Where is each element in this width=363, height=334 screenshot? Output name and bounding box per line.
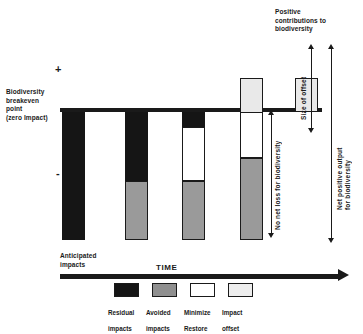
legend-item-avoided-impacts: Avoided impacts	[146, 283, 182, 333]
legend-label-impact-offset: Impact offset	[222, 301, 258, 333]
legend-swatch-avoided-impacts	[152, 283, 177, 297]
legend-swatch-impact-offset	[228, 283, 253, 297]
legend-label-residual-line-2: impacts	[108, 325, 132, 332]
legend-swatch-minimize-restore	[190, 283, 215, 297]
anticipated-impacts-line-1: Anticipated	[60, 252, 120, 261]
no-net-loss-label: No net loss for biodiversity	[274, 120, 282, 230]
baseline-overlay-end	[318, 108, 322, 112]
positive-contributions-line-1: Positive	[275, 8, 361, 17]
legend-label-minimize-line-2: Restore	[184, 325, 207, 332]
legend-label-avoided-impacts: Avoided impacts	[146, 301, 182, 333]
bar-stage-2	[125, 112, 148, 240]
legend-swatch-residual-impacts	[114, 283, 139, 297]
bar-stage-1-segment-residual	[62, 112, 85, 240]
bar-stage-4-segment-avoided	[240, 158, 263, 240]
legend: Residual impacts Avoided impacts Minimiz…	[108, 283, 258, 331]
legend-item-impact-offset: Impact offset	[222, 283, 258, 333]
bar-stage-3	[182, 112, 205, 240]
legend-item-residual-impacts: Residual impacts	[108, 283, 144, 333]
positive-contributions-annotation: Positive contributions to biodiversity	[275, 8, 361, 34]
baseline-label-line-3: point	[6, 105, 68, 114]
baseline-label-line-1: Biodiversity	[6, 88, 68, 97]
size-of-offset-label: Size of offset	[300, 62, 308, 120]
net-positive-output-line-1: Net positive output	[336, 147, 343, 210]
time-axis-line	[60, 274, 340, 279]
positive-contributions-line-2: contributions to	[275, 17, 361, 26]
bar-stage-3-segment-avoided	[182, 181, 205, 240]
net-positive-output-line-2: for biodiversity	[344, 100, 352, 210]
net-positive-output-label: Net positive output for biodiversity	[336, 100, 354, 210]
time-axis-label: TIME	[156, 264, 178, 273]
positive-contributions-line-3: biodiversity	[275, 25, 361, 34]
bar-stage-4	[240, 78, 263, 240]
bar-stage-4-segment-minimize	[240, 112, 263, 158]
biodiversity-offset-diagram: Positive contributions to biodiversity +…	[0, 0, 363, 334]
legend-item-minimize-restore: Minimize Restore	[184, 283, 220, 333]
legend-label-minimize-line-1: Minimize	[184, 309, 211, 316]
axis-negative-symbol: -	[56, 168, 60, 179]
baseline-label-line-4: (zero Impact)	[6, 114, 68, 123]
anticipated-impacts-line-2: impacts	[60, 261, 120, 270]
legend-label-offset-line-2: offset	[222, 325, 239, 332]
time-axis-arrowhead	[338, 269, 349, 281]
legend-label-minimize-restore: Minimize Restore	[184, 301, 220, 333]
bar-stage-2-segment-avoided	[125, 181, 148, 240]
legend-label-residual-impacts: Residual impacts	[108, 301, 144, 333]
bar-stage-3-segment-minimize	[182, 127, 205, 181]
baseline-label: Biodiversity breakeven point (zero Impac…	[6, 88, 68, 122]
anticipated-impacts-label: Anticipated impacts	[60, 252, 120, 269]
bar-stage-3-segment-residual	[182, 112, 205, 127]
legend-label-residual-line-1: Residual	[108, 309, 134, 316]
bar-stage-1	[62, 112, 85, 240]
legend-label-avoided-line-1: Avoided	[146, 309, 171, 316]
axis-positive-symbol: +	[55, 64, 61, 75]
baseline-label-line-2: breakeven	[6, 97, 68, 106]
legend-label-offset-line-1: Impact	[222, 309, 242, 316]
bar-stage-2-segment-residual	[125, 112, 148, 181]
legend-label-avoided-line-2: impacts	[146, 325, 170, 332]
